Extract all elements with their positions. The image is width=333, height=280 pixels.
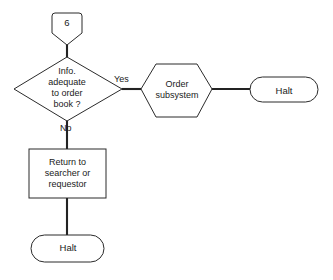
node-process-return[interactable] <box>29 149 106 198</box>
flowchart-drawing <box>0 0 333 280</box>
flowchart-canvas: 6 Info. adequate to order book ? Order s… <box>0 0 333 280</box>
node-terminal-halt-bottom[interactable] <box>31 235 104 262</box>
edge-label-yes: Yes <box>114 74 129 84</box>
node-process-order-subsystem[interactable] <box>141 64 212 117</box>
node-decision-info-adequate[interactable] <box>14 57 122 121</box>
node-off-page-connector-6[interactable] <box>52 13 82 45</box>
edge-label-no: No <box>60 123 72 133</box>
node-terminal-halt-right[interactable] <box>250 77 318 102</box>
